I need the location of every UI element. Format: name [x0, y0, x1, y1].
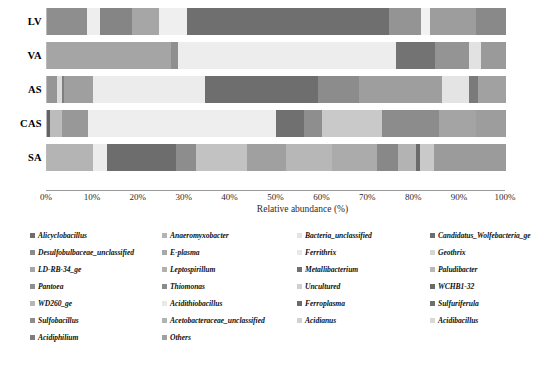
legend-label: Paludibacter [438, 262, 477, 277]
legend-label: Ferroplasma [305, 296, 345, 311]
legend-label: WD260_ge [38, 296, 72, 311]
legend-item[interactable]: Sulfobacillus [30, 313, 79, 328]
bar-segment [304, 110, 322, 137]
legend-swatch-icon [430, 301, 435, 306]
bar-segment [377, 144, 398, 171]
bar-segment [178, 42, 396, 69]
bar-segment [322, 110, 382, 137]
bar-segment [107, 144, 176, 171]
bar-segment [176, 144, 197, 171]
legend-item[interactable]: Alicyclobacillus [30, 228, 87, 243]
bar-row-cas: CAS [0, 110, 559, 137]
legend-item[interactable]: WCHB1-32 [430, 279, 474, 294]
legend-swatch-icon [297, 233, 302, 238]
legend-swatch-icon [297, 250, 302, 255]
bar-segment [469, 76, 478, 103]
bar-segment [435, 42, 469, 69]
legend-label: LD-RB-34_ge [38, 262, 81, 277]
bar-segment [276, 110, 304, 137]
legend-item[interactable]: Candidatus_Wolfebacteria_ge [430, 228, 531, 243]
bar-track [46, 144, 506, 171]
x-tick-label: 40% [221, 192, 238, 202]
bar-segment [396, 42, 435, 69]
legend-swatch-icon [297, 267, 302, 272]
legend-swatch-icon [162, 284, 167, 289]
category-label-lv: LV [0, 8, 42, 35]
legend-item[interactable]: WD260_ge [30, 296, 72, 311]
bar-segment [481, 42, 506, 69]
bar-segment [439, 110, 476, 137]
legend-item[interactable]: Acidithiobacillus [162, 296, 222, 311]
x-tick-label: 50% [267, 192, 284, 202]
bar-segment [398, 144, 416, 171]
legend-item[interactable]: Ferrithrix [297, 245, 336, 260]
x-tick-label: 60% [313, 192, 330, 202]
legend-item[interactable]: Sulfuriferula [430, 296, 479, 311]
legend-label: Sulfuriferula [438, 296, 479, 311]
bar-segment [64, 76, 92, 103]
legend-label: Uncultured [305, 279, 340, 294]
legend-swatch-icon [30, 335, 35, 340]
bar-segment [88, 110, 276, 137]
legend-label: Acidianus [305, 313, 336, 328]
legend-label: Acetobacteraceae_unclassified [170, 313, 265, 328]
legend-item[interactable]: Desulfobulbaceae_unclassified [30, 245, 134, 260]
bar-segment [389, 8, 421, 35]
bar-segment [159, 8, 187, 35]
x-axis-title: Relative abundance (%) [0, 204, 559, 214]
legend-item[interactable]: Thiomonas [162, 279, 205, 294]
x-tick-label: 100% [495, 192, 516, 202]
legend-item[interactable]: LD-RB-34_ge [30, 262, 81, 277]
legend-swatch-icon [430, 267, 435, 272]
legend-swatch-icon [297, 301, 302, 306]
legend-item[interactable]: Ferroplasma [297, 296, 345, 311]
legend-item[interactable]: Acidiphilium [30, 330, 78, 345]
bar-row-sa: SA [0, 144, 559, 171]
legend-label: Leptospirillum [170, 262, 215, 277]
legend-label: Acidiphilium [38, 330, 78, 345]
bar-segment [382, 110, 439, 137]
legend-item[interactable]: Leptospirillum [162, 262, 215, 277]
legend-label: WCHB1-32 [438, 279, 474, 294]
bar-segment [421, 8, 430, 35]
legend-item[interactable]: Bacteria_unclassified [297, 228, 372, 243]
legend-label: Sulfobacillus [38, 313, 79, 328]
legend-item[interactable]: Acetobacteraceae_unclassified [162, 313, 265, 328]
legend-swatch-icon [162, 267, 167, 272]
legend-item[interactable]: Uncultured [297, 279, 340, 294]
bar-row-va: VA [0, 42, 559, 69]
bar-row-lv: LV [0, 8, 559, 35]
legend-swatch-icon [162, 335, 167, 340]
bar-segment [50, 110, 62, 137]
legend-label: Desulfobulbaceae_unclassified [38, 245, 134, 260]
legend-swatch-icon [430, 284, 435, 289]
legend-label: Others [170, 330, 191, 345]
bar-segment [476, 8, 506, 35]
legend-item[interactable]: Geothrix [430, 245, 465, 260]
legend-label: Pantoea [38, 279, 63, 294]
bar-segment [87, 8, 100, 35]
category-label-va: VA [0, 42, 42, 69]
legend-swatch-icon [30, 318, 35, 323]
bar-segment [478, 76, 506, 103]
legend-item[interactable]: Pantoea [30, 279, 63, 294]
legend-swatch-icon [30, 284, 35, 289]
legend-item[interactable]: E-plasma [162, 245, 200, 260]
legend-item[interactable]: Others [162, 330, 191, 345]
x-tick-label: 0% [40, 192, 52, 202]
bar-segment [359, 76, 442, 103]
bar-segment [47, 144, 93, 171]
category-label-sa: SA [0, 144, 42, 171]
legend-item[interactable]: Paludibacter [430, 262, 477, 277]
legend-item[interactable]: Acidibacillus [430, 313, 478, 328]
legend-swatch-icon [162, 318, 167, 323]
legend-item[interactable]: Acidianus [297, 313, 336, 328]
legend-label: Metallibacterium [305, 262, 358, 277]
legend-item[interactable]: Metallibacterium [297, 262, 358, 277]
legend-label: Acidibacillus [438, 313, 478, 328]
legend-item[interactable]: Anaeromyxobacter [162, 228, 229, 243]
bar-segment [132, 8, 159, 35]
x-tick-label: 70% [359, 192, 376, 202]
legend-swatch-icon [30, 250, 35, 255]
bar-track [46, 110, 506, 137]
